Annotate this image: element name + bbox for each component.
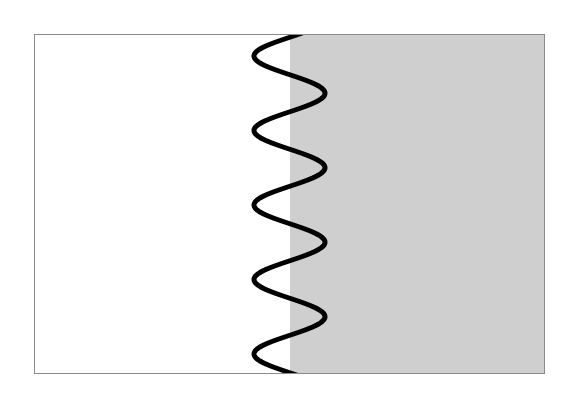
right-gray-region	[290, 35, 545, 374]
wave-boundary-diagram	[0, 0, 576, 397]
